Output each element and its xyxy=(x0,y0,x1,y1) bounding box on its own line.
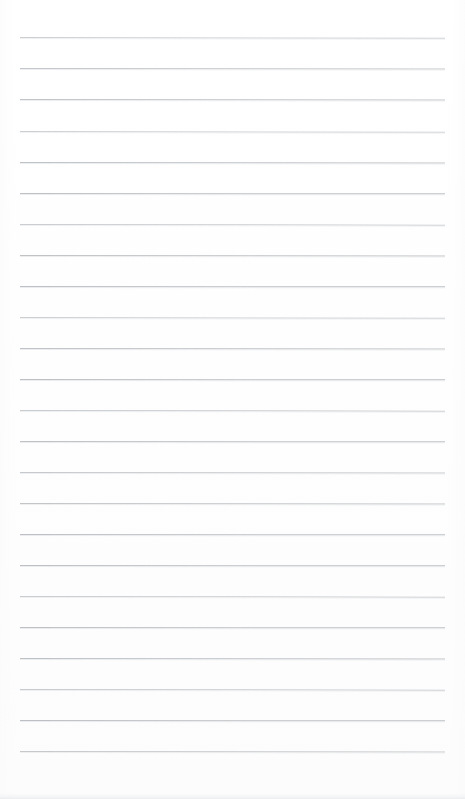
ruled-line xyxy=(20,286,445,287)
ruled-line xyxy=(20,720,445,721)
ruled-line xyxy=(20,565,445,566)
ruled-line xyxy=(20,317,445,319)
ruled-line xyxy=(20,503,445,505)
ruled-line xyxy=(20,68,445,70)
ruled-line xyxy=(20,410,445,412)
ruled-line xyxy=(20,162,445,163)
ruled-line xyxy=(20,441,445,442)
ruled-line xyxy=(20,131,445,133)
lined-paper-page xyxy=(0,0,465,799)
ruled-line xyxy=(20,627,445,628)
ruled-line xyxy=(20,751,445,753)
ruled-line xyxy=(20,37,445,39)
ruled-line xyxy=(20,348,445,349)
ruled-line xyxy=(20,596,445,598)
ruled-line xyxy=(20,472,445,474)
ruled-line xyxy=(20,255,445,256)
ruled-lines-layer xyxy=(0,0,465,799)
ruled-line xyxy=(20,658,445,659)
ruled-line xyxy=(20,689,445,691)
ruled-line xyxy=(20,224,445,226)
ruled-line xyxy=(20,379,445,380)
ruled-line xyxy=(20,99,445,100)
ruled-line xyxy=(20,193,445,194)
ruled-line xyxy=(20,534,445,535)
